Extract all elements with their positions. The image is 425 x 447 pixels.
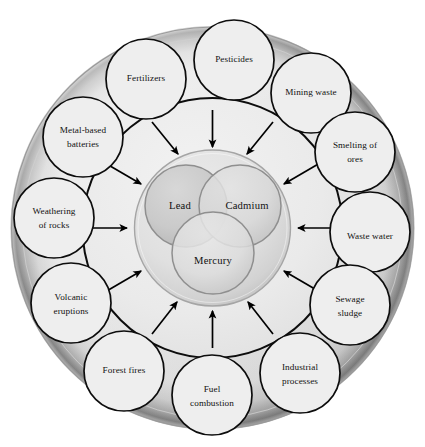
source-label-volcanic-eruptions-line2: eruptions <box>53 306 88 316</box>
core-circle-mercury[interactable] <box>172 212 254 294</box>
circular-diagram: Lead Cadmium Mercury Pesticides <box>0 0 425 447</box>
source-circle-smelting-of-ores[interactable] <box>315 112 395 192</box>
source-node-waste-water[interactable]: Waste water <box>330 192 410 272</box>
source-node-sewage-sludge[interactable]: Sewage sludge <box>310 265 390 345</box>
core-label-mercury: Mercury <box>194 255 232 266</box>
figure-canvas: Lead Cadmium Mercury Pesticides <box>0 0 425 447</box>
source-label-pesticides: Pesticides <box>215 54 253 64</box>
source-label-mining-waste: Mining waste <box>285 87 336 97</box>
source-label-smelting-of-ores-line1: Smelting of <box>333 140 378 150</box>
source-label-weathering-of-rocks-line2: of rocks <box>39 220 70 230</box>
source-circle-metal-based-batteries[interactable] <box>43 97 123 177</box>
source-node-fertilizers[interactable]: Fertilizers <box>106 39 186 119</box>
source-label-forest-fires: Forest fires <box>103 365 146 375</box>
source-node-fuel-combustion[interactable]: Fuel combustion <box>172 355 252 435</box>
source-circle-weathering-of-rocks[interactable] <box>14 178 94 258</box>
source-label-sewage-sludge-line2: sludge <box>338 308 363 318</box>
source-node-volcanic-eruptions[interactable]: Volcanic eruptions <box>31 263 111 343</box>
source-node-forest-fires[interactable]: Forest fires <box>84 331 164 411</box>
source-node-pesticides[interactable]: Pesticides <box>194 20 274 100</box>
source-label-volcanic-eruptions-line1: Volcanic <box>55 292 88 302</box>
source-label-waste-water: Waste water <box>347 231 393 241</box>
source-circle-sewage-sludge[interactable] <box>310 265 390 345</box>
source-label-fuel-combustion-line2: combustion <box>190 398 234 408</box>
source-label-industrial-processes-line2: processes <box>282 376 318 386</box>
source-label-metal-based-batteries-line1: Metal-based <box>60 125 107 135</box>
source-label-sewage-sludge-line1: Sewage <box>335 294 364 304</box>
source-label-metal-based-batteries-line2: batteries <box>67 139 99 149</box>
source-circle-industrial-processes[interactable] <box>260 333 340 413</box>
source-label-fuel-combustion-line1: Fuel <box>204 384 221 394</box>
source-label-weathering-of-rocks-line1: Weathering <box>32 206 75 216</box>
source-label-smelting-of-ores-line2: ores <box>347 154 363 164</box>
core-label-cadmium: Cadmium <box>225 200 269 211</box>
core-label-lead: Lead <box>169 200 191 211</box>
source-circle-volcanic-eruptions[interactable] <box>31 263 111 343</box>
source-node-weathering-of-rocks[interactable]: Weathering of rocks <box>14 178 94 258</box>
source-node-industrial-processes[interactable]: Industrial processes <box>260 333 340 413</box>
source-node-metal-based-batteries[interactable]: Metal-based batteries <box>43 97 123 177</box>
source-label-industrial-processes-line1: Industrial <box>282 362 319 372</box>
source-node-smelting-of-ores[interactable]: Smelting of ores <box>315 112 395 192</box>
source-circle-fuel-combustion[interactable] <box>172 355 252 435</box>
source-label-fertilizers: Fertilizers <box>127 73 166 83</box>
